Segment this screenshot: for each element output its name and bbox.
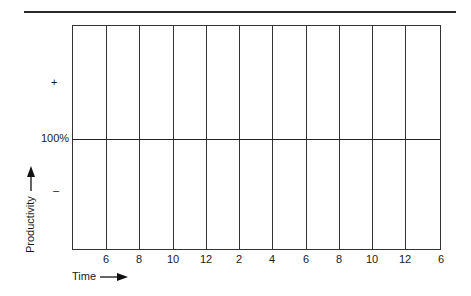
- x-tick: 12: [200, 253, 212, 265]
- x-tick: 6: [438, 253, 444, 265]
- x-tick: 2: [236, 253, 242, 265]
- plot-area: [72, 25, 441, 250]
- x-axis-label: Time: [72, 270, 129, 282]
- grid-line: [139, 26, 140, 249]
- grid-line: [239, 26, 240, 249]
- minus-marker: –: [53, 184, 59, 196]
- arrow-up-icon: [26, 165, 36, 193]
- x-tick: 8: [336, 253, 342, 265]
- y-axis-label-text: Productivity: [24, 196, 36, 253]
- plus-marker: +: [51, 76, 57, 88]
- top-rule: [24, 11, 456, 13]
- x-tick: 10: [366, 253, 378, 265]
- grid-line: [372, 26, 373, 249]
- grid-line: [339, 26, 340, 249]
- x-tick: 6: [103, 253, 109, 265]
- grid-line: [173, 26, 174, 249]
- y-axis-label: Productivity: [24, 165, 36, 253]
- grid-line: [405, 26, 406, 249]
- x-tick: 8: [136, 253, 142, 265]
- grid-line: [206, 26, 207, 249]
- x-tick: 4: [269, 253, 275, 265]
- x-tick: 12: [399, 253, 411, 265]
- grid-line: [306, 26, 307, 249]
- hundred-percent-line: [73, 139, 440, 140]
- grid-line: [272, 26, 273, 249]
- grid-line: [106, 26, 107, 249]
- hundred-percent-label: 100%: [41, 132, 69, 144]
- x-tick: 6: [303, 253, 309, 265]
- arrow-right-icon: [99, 272, 129, 282]
- x-tick: 10: [167, 253, 179, 265]
- x-axis-label-text: Time: [72, 270, 96, 282]
